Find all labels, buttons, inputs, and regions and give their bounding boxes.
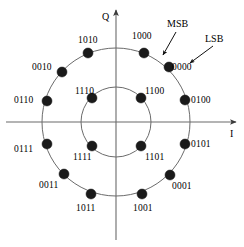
point-label: 1000 xyxy=(132,31,152,41)
constellation-point xyxy=(137,189,147,199)
point-label: 0011 xyxy=(39,180,58,190)
point-label: 0101 xyxy=(191,139,211,149)
msb-annotation-arrow xyxy=(163,32,176,55)
point-label: 1011 xyxy=(76,203,95,213)
msb-annotation-label: MSB xyxy=(167,18,188,29)
constellation-point xyxy=(42,139,52,149)
lsb-annotation-arrow xyxy=(190,46,213,63)
point-label: 1100 xyxy=(145,86,164,96)
point-label: 1010 xyxy=(78,35,98,45)
constellation-point xyxy=(180,95,190,105)
point-label: 1001 xyxy=(133,203,153,213)
lsb-annotation-label: LSB xyxy=(205,33,223,44)
point-label: 0010 xyxy=(32,62,52,72)
point-label: 0100 xyxy=(191,95,211,105)
constellation-point xyxy=(180,139,190,149)
point-label: 0111 xyxy=(14,144,33,154)
point-label: 0110 xyxy=(14,95,33,105)
point-label: 1110 xyxy=(75,86,94,96)
constellation-point xyxy=(87,141,97,151)
constellation-point xyxy=(139,48,149,58)
constellation-point xyxy=(59,169,69,179)
point-label: 1101 xyxy=(145,152,164,162)
axes-group xyxy=(6,10,236,240)
q-axis-label: Q xyxy=(102,11,109,22)
constellation-point xyxy=(86,189,96,199)
constellation-point xyxy=(165,170,175,180)
point-label: 1111 xyxy=(73,152,92,162)
constellation-diagram: Q I 100010100010011001110011101110010001… xyxy=(0,0,244,247)
constellation-point xyxy=(136,141,146,151)
constellation-point xyxy=(57,67,67,77)
constellation-point xyxy=(42,96,52,106)
point-label: 0000 xyxy=(172,62,192,72)
i-axis-label: I xyxy=(230,128,233,139)
point-label: 0001 xyxy=(172,181,192,191)
constellation-point xyxy=(83,48,93,58)
